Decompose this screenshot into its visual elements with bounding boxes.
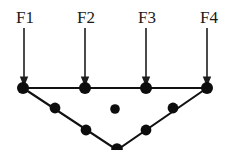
- member-left-diagonal: [23, 88, 117, 150]
- node-n-left-diag-2: [81, 125, 92, 136]
- force-labels: F1F2F3F4: [16, 8, 218, 27]
- arrow-f4: [203, 28, 211, 87]
- label-f1: F1: [16, 8, 34, 27]
- node-n-bottom-apex: [111, 143, 123, 150]
- truss-nodes: [17, 82, 213, 150]
- node-n-center-free: [110, 104, 120, 114]
- diagram-canvas: F1F2F3F4: [0, 0, 231, 150]
- arrow-f1: [20, 28, 28, 87]
- arrow-f3: [142, 28, 150, 87]
- truss-members: [23, 88, 207, 150]
- label-f3: F3: [138, 8, 156, 27]
- label-f4: F4: [200, 8, 218, 27]
- node-n-right-diag-1: [168, 103, 179, 114]
- label-f2: F2: [77, 8, 95, 27]
- node-n-left-diag-1: [50, 103, 61, 114]
- force-diagram: F1F2F3F4: [0, 0, 231, 150]
- node-n-top-left: [17, 82, 29, 94]
- force-arrows: [20, 28, 211, 87]
- node-n-top-mid-left: [79, 82, 91, 94]
- member-right-diagonal: [117, 88, 207, 150]
- node-n-top-mid-right: [140, 82, 152, 94]
- node-n-top-right: [201, 82, 213, 94]
- node-n-right-diag-2: [141, 125, 152, 136]
- arrow-f2: [81, 28, 89, 87]
